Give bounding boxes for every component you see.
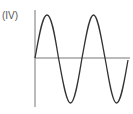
sine-curve <box>35 15 128 103</box>
sine-wave-plot <box>0 0 133 114</box>
